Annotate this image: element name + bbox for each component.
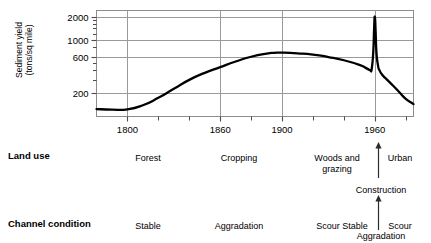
land-use-label-woods-and-grazing: Woods and grazing <box>314 153 359 174</box>
y-tick-label: 600 <box>73 52 89 63</box>
chart-canvas: 20060010002000 1800186019001960 <box>0 0 431 135</box>
land-use-label-cropping: Cropping <box>221 153 258 164</box>
channel-label-scour: Scour <box>388 221 412 232</box>
x-axis-tick-labels: 1800186019001960 <box>117 124 386 135</box>
channel-condition-divider-arrow <box>368 193 390 233</box>
y-tick-label: 200 <box>73 88 89 99</box>
x-tick-label: 1800 <box>117 124 138 135</box>
channel-label-scour-stable: Scour Stable <box>316 221 368 232</box>
row-header-land-use: Land use <box>8 150 50 161</box>
plot-frame <box>97 11 414 117</box>
channel-label-aggradation: Aggradation <box>215 221 264 232</box>
sediment-yield-chart: Sediment yield (tons/sq mile) 2006001000… <box>0 0 431 135</box>
y-tick-label: 2000 <box>67 12 88 23</box>
y-axis-tick-labels: 20060010002000 <box>67 12 88 99</box>
x-tick-label: 1860 <box>210 124 231 135</box>
land-use-label-forest: Forest <box>135 153 161 164</box>
aggradation-bottom-label: Aggradation <box>357 231 406 242</box>
row-header-channel-condition: Channel condition <box>8 218 91 229</box>
x-axis-ticks <box>128 117 407 122</box>
y-tick-label: 1000 <box>67 35 88 46</box>
channel-label-stable: Stable <box>135 221 161 232</box>
y-axis-ticks <box>92 18 97 94</box>
x-tick-label: 1960 <box>364 124 385 135</box>
x-tick-label: 1900 <box>271 124 292 135</box>
land-use-label-urban: Urban <box>388 153 413 164</box>
land-use-divider-arrow <box>368 140 390 180</box>
